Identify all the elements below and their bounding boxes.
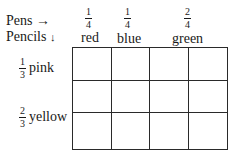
col-blue-fraction: 1 4 xyxy=(124,7,131,30)
grid-line xyxy=(72,47,228,48)
grid-line xyxy=(188,47,189,149)
grid-line xyxy=(72,47,73,149)
numerator: 1 xyxy=(125,7,130,17)
grid-line xyxy=(149,47,150,149)
denominator: 4 xyxy=(125,20,130,30)
right-arrow-icon: → xyxy=(36,13,50,28)
numerator: 1 xyxy=(86,7,91,17)
numerator: 2 xyxy=(185,7,190,17)
col-red-fraction: 1 4 xyxy=(85,7,92,30)
pens-text: Pens xyxy=(6,13,32,28)
grid-line xyxy=(72,149,228,150)
row-yellow-label: yellow xyxy=(29,110,67,124)
col-green-label: green xyxy=(172,32,203,46)
down-arrow-icon: ↓ xyxy=(50,31,56,43)
denominator: 4 xyxy=(185,20,190,30)
grid-line xyxy=(111,47,112,149)
grid-line xyxy=(227,47,228,149)
outcome-grid xyxy=(72,47,227,149)
pencils-text: Pencils xyxy=(6,29,46,44)
pens-label: Pens → xyxy=(6,14,50,28)
col-red-label: red xyxy=(81,31,99,45)
numerator: 2 xyxy=(20,106,25,116)
denominator: 3 xyxy=(20,70,25,80)
col-green-fraction: 2 4 xyxy=(184,7,191,30)
numerator: 1 xyxy=(20,57,25,67)
row-pink-fraction: 1 3 xyxy=(19,57,26,80)
pencils-label: Pencils ↓ xyxy=(6,30,55,44)
col-blue-label: blue xyxy=(117,32,141,46)
grid-line xyxy=(72,112,228,113)
grid-line xyxy=(72,80,228,81)
denominator: 4 xyxy=(86,20,91,30)
denominator: 3 xyxy=(20,119,25,129)
row-yellow-fraction: 2 3 xyxy=(19,106,26,129)
row-pink-label: pink xyxy=(29,61,54,75)
